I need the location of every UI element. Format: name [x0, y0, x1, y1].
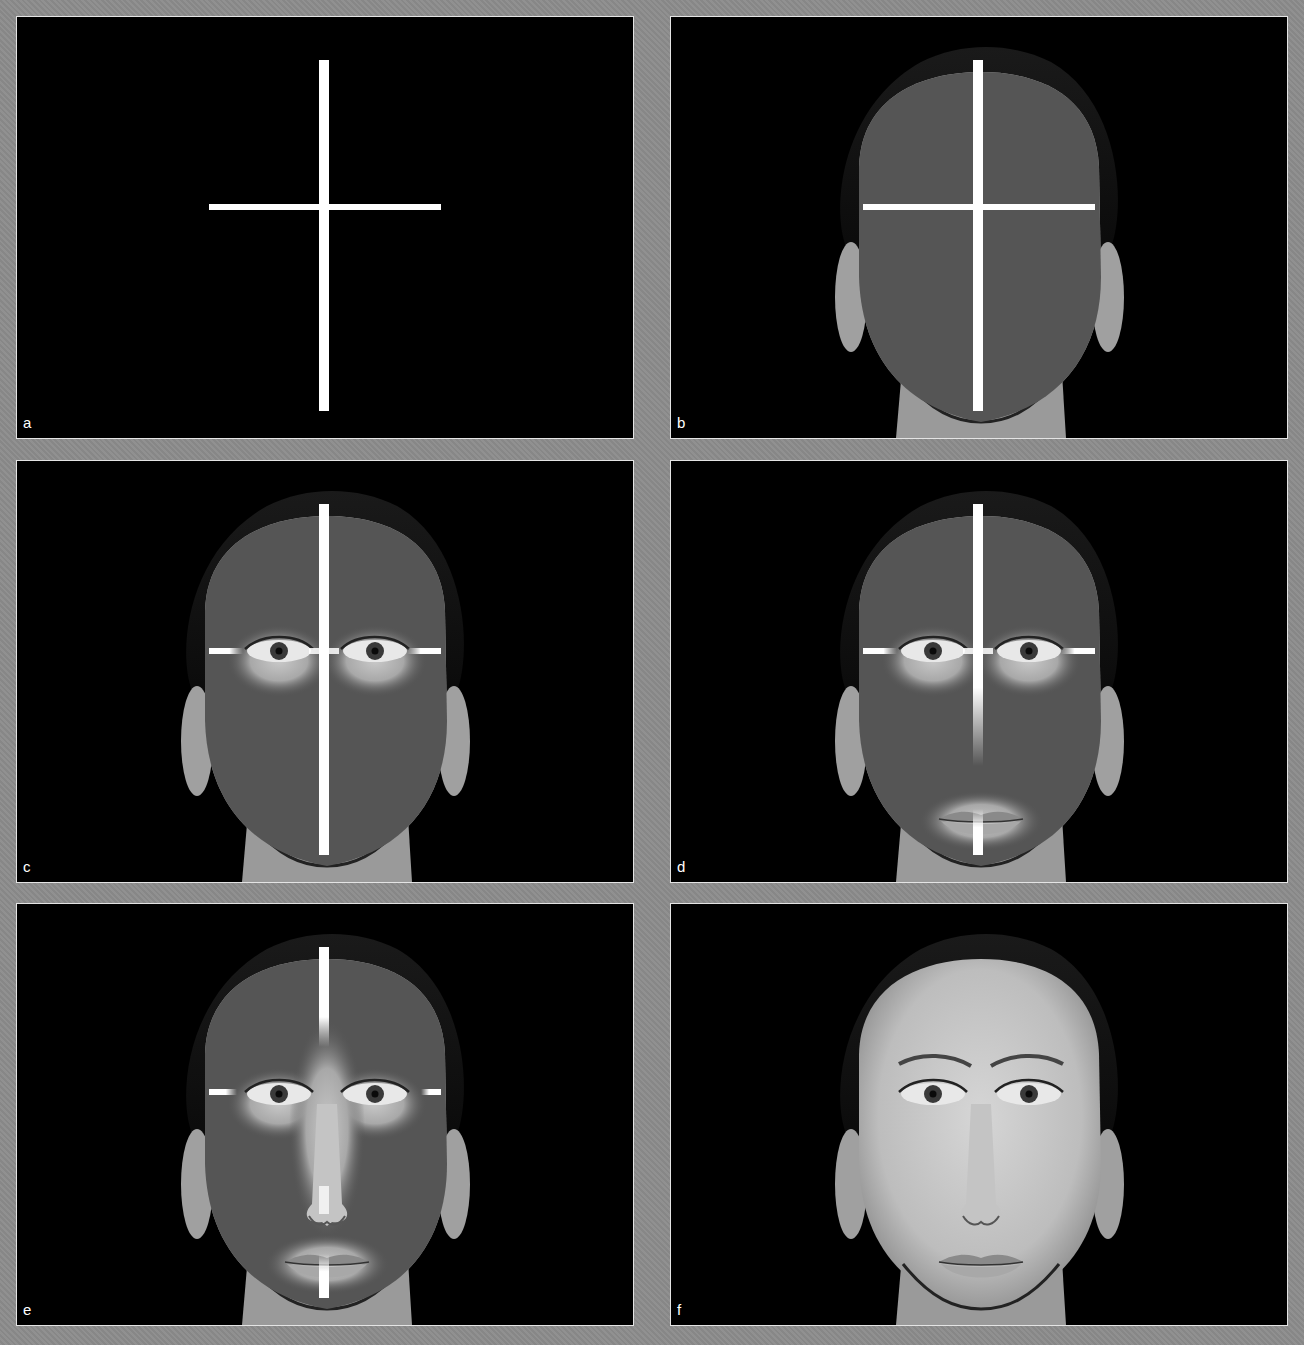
panel-f: f	[670, 903, 1288, 1326]
vertical-midline-bar	[319, 60, 329, 411]
eyeline-center	[963, 648, 993, 654]
panel-b: b	[670, 16, 1288, 439]
eyeline-left-stub	[863, 648, 897, 654]
vertical-midline-bar	[973, 60, 983, 411]
panel-e: e	[16, 903, 634, 1326]
vertical-midline-bar-upper	[973, 504, 983, 766]
eyeline-left-stub	[209, 1089, 237, 1095]
eyeline-center	[309, 648, 339, 654]
eyes-nose-lips-revealed-graphic	[17, 904, 633, 1325]
masked-face-graphic	[671, 17, 1287, 438]
panel-label: c	[23, 859, 31, 874]
eyes-lips-revealed-graphic	[671, 461, 1287, 882]
vertical-midline-bar-philtrum	[319, 1186, 329, 1214]
panel-label: e	[23, 1302, 31, 1317]
eyeline-right-stub	[407, 648, 441, 654]
horizontal-eyeline-bar	[209, 204, 441, 210]
vertical-midline-bar-chin	[973, 809, 983, 855]
crosshair-graphic	[17, 17, 633, 438]
vertical-midline-bar-forehead	[319, 947, 329, 1047]
panel-label: a	[23, 415, 31, 430]
eyes-revealed-graphic	[17, 461, 633, 882]
eyeline-right-stub	[421, 1089, 441, 1095]
horizontal-eyeline-bar	[863, 204, 1095, 210]
eyeline-left-stub	[209, 648, 243, 654]
eyeline-right-stub	[1061, 648, 1095, 654]
panel-label: d	[677, 859, 685, 874]
vertical-midline-bar-chin	[319, 1254, 329, 1298]
panel-a: a	[16, 16, 634, 439]
panel-label: f	[677, 1302, 681, 1317]
panel-d: d	[670, 460, 1288, 883]
full-face-graphic	[671, 904, 1287, 1325]
panel-label: b	[677, 415, 685, 430]
panel-c: c	[16, 460, 634, 883]
vertical-midline-bar	[319, 504, 329, 855]
